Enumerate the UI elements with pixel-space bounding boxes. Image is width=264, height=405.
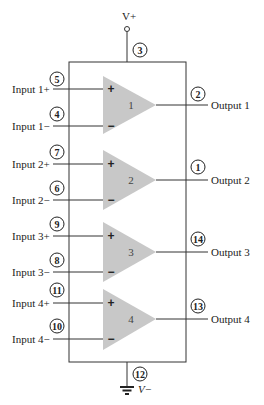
pin-number-input-plus: 9 <box>55 219 60 230</box>
amplifier-4: 4 + − Input 4+ Input 4− 11 10 13 Output … <box>12 283 250 350</box>
pin-number-input-minus: 8 <box>55 255 60 266</box>
vplus-supply: V+ 3 <box>122 10 147 62</box>
amp-number: 4 <box>128 313 134 325</box>
amp-number: 2 <box>128 174 134 186</box>
pin-number-output: 13 <box>193 301 203 312</box>
pin-number-input-minus: 4 <box>55 109 60 120</box>
vplus-label: V+ <box>122 10 136 22</box>
vminus-label: V− <box>138 383 152 395</box>
input-minus-label: Input 1− <box>12 120 50 132</box>
output-label: Output 2 <box>211 174 250 186</box>
amplifier-3: 3 + − Input 3+ Input 3− 9 8 14 Output 3 <box>12 217 250 282</box>
minus-sign: − <box>107 119 114 133</box>
pin-number-vminus: 12 <box>135 369 145 380</box>
output-label: Output 3 <box>211 246 250 258</box>
opamp-pinout-diagram: V+ 3 1 + − Input 1+ Input 1− 5 4 2 Outpu… <box>0 0 264 405</box>
pin-number-input-minus: 10 <box>52 321 62 332</box>
pin-number-input-minus: 6 <box>55 183 60 194</box>
input-plus-label: Input 2+ <box>12 158 50 170</box>
input-minus-label: Input 4− <box>12 333 50 345</box>
output-label: Output 4 <box>211 313 250 325</box>
plus-sign: + <box>107 82 114 96</box>
amplifier-1: 1 + − Input 1+ Input 1− 5 4 2 Output 1 <box>12 72 250 134</box>
output-label: Output 1 <box>211 99 250 111</box>
input-plus-label: Input 4+ <box>12 297 50 309</box>
input-plus-label: Input 1+ <box>12 83 50 95</box>
plus-sign: + <box>107 296 114 310</box>
minus-sign: − <box>107 265 114 279</box>
input-plus-label: Input 3+ <box>12 230 50 242</box>
pin-number-input-plus: 5 <box>55 74 60 85</box>
pin-number-output: 1 <box>196 162 201 173</box>
pin-number-input-plus: 7 <box>55 147 60 158</box>
plus-sign: + <box>107 157 114 171</box>
minus-sign: − <box>107 332 114 346</box>
plus-sign: + <box>107 229 114 243</box>
amp-number: 3 <box>128 246 134 258</box>
ground-icon <box>120 387 134 394</box>
pin-number-output: 2 <box>196 89 201 100</box>
input-minus-label: Input 3− <box>12 266 50 278</box>
vplus-terminal-icon <box>125 27 130 32</box>
minus-sign: − <box>107 193 114 207</box>
pin-number-vplus: 3 <box>138 45 143 56</box>
vminus-supply: 12 V− <box>120 362 152 395</box>
input-minus-label: Input 2− <box>12 194 50 206</box>
pin-number-output: 14 <box>193 234 203 245</box>
amp-number: 1 <box>128 99 134 111</box>
pin-number-input-plus: 11 <box>52 285 61 296</box>
amplifier-2: 2 + − Input 2+ Input 2− 7 6 1 Output 2 <box>12 145 250 210</box>
